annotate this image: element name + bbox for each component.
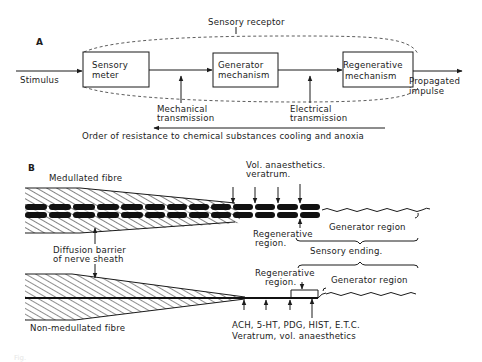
box-3-line-1: Regenerative [343,60,403,70]
panel-b-label: B [28,163,35,173]
mechanical-line-2: transmission [157,113,214,123]
receptor-envelope-top [84,36,418,54]
panel-a-label: A [36,37,43,47]
generator-bracket-tick [415,213,418,218]
electrical-line-2: transmission [290,113,347,123]
figure-caption-faint: Fig. [14,354,26,362]
box-2-line-1: Generator [218,60,264,70]
box-1-line-2: meter [92,70,119,80]
medullated-agents-line-2: veratrum. [246,169,290,179]
medullated-generator-label: Generator region [329,222,406,232]
non-medullated-fibre-label: Non-medullated fibre [30,323,125,333]
box-1-line-1: Sensory [92,60,128,70]
non-medullated-terminal-wave [326,293,416,296]
non-medullated-regenerative-line-2: region. [265,277,296,287]
non-medullated-generator-label: Generator region [331,275,408,285]
output-line-2: impulse [409,86,444,96]
panel-b: B Medullated fibre Vol. anaestheti [25,160,430,341]
sensory-ending-label: Sensory ending. [310,246,382,256]
generator-brace-start [318,288,326,298]
non-medullated-regenerative-bracket [291,290,318,297]
box-3-line-2: mechanism [345,71,397,81]
sensory-receptor-figure: A Sensory receptor Stimulus Sensory mete… [0,0,482,362]
receptor-envelope-bottom [84,87,418,102]
medullated-fibre-label: Medullated fibre [49,173,122,183]
panel-a: A Sensory receptor Stimulus Sensory mete… [16,17,462,141]
sensory-receptor-title: Sensory receptor [208,17,285,27]
box-2-line-2: mechanism [218,70,270,80]
nm-agents-line-2: Veratrum, vol. anaesthetics [232,331,356,341]
barrier-line-2: of nerve sheath [53,254,124,264]
stimulus-label: Stimulus [20,75,59,85]
nm-agents-line-1: ACH, 5-HT, PDG, HIST, E.T.C. [232,320,360,330]
sensory-ending-brace-top [296,238,418,244]
sensory-ending-brace-bottom [298,262,418,268]
output-line-1: Propagated [409,76,460,86]
medullated-regenerative-line-2: region. [255,238,286,248]
resistance-note: Order of resistance to chemical substanc… [82,131,364,141]
medullated-terminal-wave [322,208,430,211]
